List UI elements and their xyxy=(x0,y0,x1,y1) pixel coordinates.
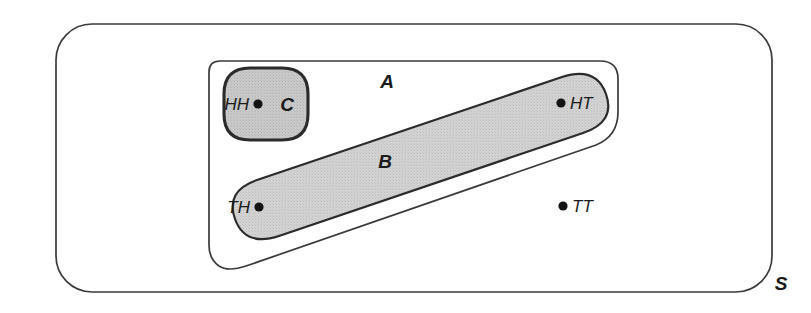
venn-diagram-canvas: A B C S HH HT TH TT xyxy=(0,0,811,313)
point-hh-dot xyxy=(253,99,262,108)
point-ht-dot xyxy=(556,98,565,107)
point-th-dot xyxy=(254,202,263,211)
set-b-label: B xyxy=(378,151,392,172)
point-tt-dot xyxy=(558,201,567,210)
set-s-label: S xyxy=(775,273,788,294)
venn-diagram-svg: A B C S HH HT TH TT xyxy=(0,0,811,313)
point-th-label: TH xyxy=(227,198,250,217)
point-tt-label: TT xyxy=(572,197,594,216)
point-ht-label: HT xyxy=(570,94,594,113)
set-c-label: C xyxy=(280,94,294,115)
point-tt: TT xyxy=(558,197,594,216)
point-hh-label: HH xyxy=(224,95,249,114)
set-a-label: A xyxy=(379,71,394,92)
